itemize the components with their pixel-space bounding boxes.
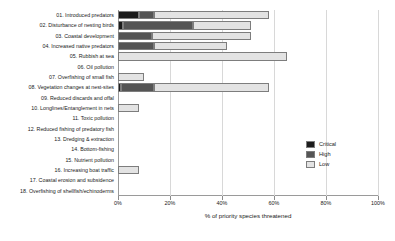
bar-segment-high xyxy=(121,83,155,91)
bar-segment-high xyxy=(118,32,152,40)
category-label: 17. Coastal erosion and subsidence xyxy=(30,177,114,183)
legend-item-high: High xyxy=(306,149,336,159)
bar-segment-low xyxy=(118,73,144,81)
category-label: 18. Overfishing of shellfish/echinoderms xyxy=(20,188,114,194)
x-axis-tick-label: 80% xyxy=(321,200,332,206)
x-axis-tick-label: 40% xyxy=(217,200,228,206)
bar-row: 01. Introduced predators xyxy=(118,11,378,19)
bar-segment-high xyxy=(123,21,193,29)
legend-label: Low xyxy=(319,161,329,168)
bar-rows: 01. Introduced predators02. Disturbance … xyxy=(118,10,378,196)
bar-segment-low xyxy=(154,83,268,91)
legend-swatch-high xyxy=(306,151,315,158)
legend-label: Critical xyxy=(319,141,336,148)
legend-swatch-low xyxy=(306,161,315,168)
category-label: 08. Vegetation changes at nest-sites xyxy=(29,84,114,90)
bar-row: 15. Nutrient pollution xyxy=(118,156,378,164)
category-label: 09. Reduced discards and offal xyxy=(41,95,114,101)
category-label: 01. Introduced predators xyxy=(56,12,114,18)
bar-segment-low xyxy=(193,21,250,29)
bar-row: 09. Reduced discards and offal xyxy=(118,94,378,102)
category-label: 10. Longlines/Entanglement in nets xyxy=(31,105,114,111)
bar-segment-high xyxy=(118,42,154,50)
category-label: 03. Coastal development xyxy=(55,33,114,39)
x-axis-tick-labels: 0%20%40%60%80%100% xyxy=(118,200,378,210)
plot-area: 01. Introduced predators02. Disturbance … xyxy=(118,10,378,196)
bar-row: 18. Overfishing of shellfish/echinoderms xyxy=(118,187,378,195)
bar-row: 05. Rubbish at sea xyxy=(118,52,378,60)
legend-item-critical: Critical xyxy=(306,139,336,149)
bar-row: 17. Coastal erosion and subsidence xyxy=(118,176,378,184)
bar-row: 11. Toxic pollution xyxy=(118,114,378,122)
bar-row: 13. Dredging & extraction xyxy=(118,135,378,143)
x-axis-tick-label: 60% xyxy=(269,200,280,206)
bar-row: 16. Increasing boat traffic xyxy=(118,166,378,174)
category-label: 07. Overfishing of small fish xyxy=(49,74,114,80)
category-label: 02. Disturbance of nesting birds xyxy=(40,22,115,28)
legend-swatch-critical xyxy=(306,141,315,148)
legend-label: High xyxy=(319,151,331,158)
category-label: 04. Increased native predators xyxy=(42,43,114,49)
x-axis-tick-label: 100% xyxy=(371,200,385,206)
bar-segment-low xyxy=(154,11,268,19)
category-label: 15. Nutrient pollution xyxy=(65,157,114,163)
bar-segment-low xyxy=(118,166,139,174)
bar-row: 10. Longlines/Entanglement in nets xyxy=(118,104,378,112)
category-label: 14. Bottom-fishing xyxy=(71,146,114,152)
legend-item-low: Low xyxy=(306,159,336,169)
category-label: 13. Dredging & extraction xyxy=(54,136,114,142)
bar-row: 07. Overfishing of small fish xyxy=(118,73,378,81)
x-axis-label: % of priority species threatened xyxy=(118,212,378,219)
bar-segment-low xyxy=(118,52,287,60)
bar-segment-critical xyxy=(118,11,139,19)
x-axis-tick-label: 0% xyxy=(114,200,122,206)
bar-row: 12. Reduced fishing of predatory fish xyxy=(118,125,378,133)
horizontal-stacked-bar-chart: 01. Introduced predators02. Disturbance … xyxy=(0,0,395,241)
category-label: 12. Reduced fishing of predatory fish xyxy=(28,126,114,132)
bar-segment-low xyxy=(152,32,251,40)
category-label: 05. Rubbish at sea xyxy=(70,53,114,59)
legend: CriticalHighLow xyxy=(306,139,336,169)
category-label: 16. Increasing boat traffic xyxy=(55,167,114,173)
category-label: 11. Toxic pollution xyxy=(72,115,114,121)
bar-row: 04. Increased native predators xyxy=(118,42,378,50)
bar-row: 08. Vegetation changes at nest-sites xyxy=(118,83,378,91)
bar-segment-low xyxy=(118,104,139,112)
bar-row: 14. Bottom-fishing xyxy=(118,145,378,153)
bar-segment-high xyxy=(139,11,155,19)
bar-row: 06. Oil pollution xyxy=(118,63,378,71)
bar-row: 02. Disturbance of nesting birds xyxy=(118,21,378,29)
category-label: 06. Oil pollution xyxy=(77,64,114,70)
gridline xyxy=(378,10,379,196)
x-axis-tick-label: 20% xyxy=(165,200,176,206)
bar-row: 03. Coastal development xyxy=(118,32,378,40)
bar-segment-low xyxy=(154,42,227,50)
